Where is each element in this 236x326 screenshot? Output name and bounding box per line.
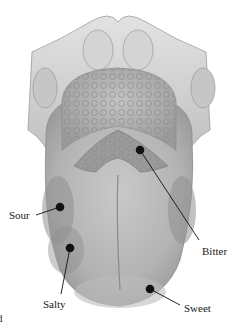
left-tonsil	[33, 68, 57, 108]
right-tonsil	[191, 68, 215, 108]
salty-label: Salty	[43, 299, 66, 310]
tongue-diagram: Sour Salty Bitter Sweet d	[0, 0, 236, 326]
tongue-illustration	[0, 0, 236, 326]
sweet-label: Sweet	[184, 303, 211, 314]
sour-label: Sour	[9, 210, 30, 221]
right-side-region	[168, 176, 196, 244]
bitter-label: Bitter	[202, 246, 227, 257]
left-lobe	[83, 30, 113, 70]
edge-text-fragment: d	[0, 313, 3, 324]
right-lobe	[123, 30, 153, 70]
